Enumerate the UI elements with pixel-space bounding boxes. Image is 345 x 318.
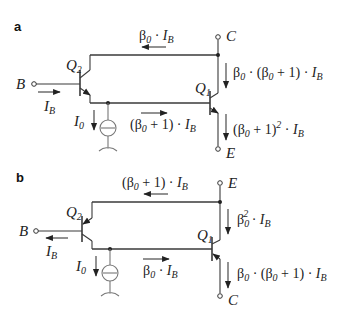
current-ib-label: IB [45, 243, 57, 261]
terminal-e-node [218, 181, 223, 186]
terminal-b-label: B [16, 76, 25, 92]
q2-label: Q2 [66, 57, 82, 75]
current-top-label: (β0 + 1) · IB [122, 175, 188, 192]
terminal-c-label: C [226, 28, 237, 44]
current-right-upper-label: β0 · (β0 + 1) · IB [233, 65, 323, 82]
current-right-lower-label: β0 · (β0 + 1) · IB [237, 266, 327, 283]
current-bottom-label: β0 · IB [143, 263, 178, 280]
current-right-upper-label: β02 · IB [237, 208, 271, 229]
panel-b-label: b [16, 170, 24, 185]
darlington-circuit-figure: a [0, 0, 345, 318]
current-source-icon [101, 249, 119, 296]
current-top-label: β0 · IB [139, 28, 174, 45]
current-right-lower-label: (β0 + 1)2 · IB [233, 119, 304, 139]
current-source-icon [99, 103, 117, 151]
terminal-c-node [216, 35, 221, 40]
current-i0-label: I0 [75, 258, 86, 276]
current-ib-label: IB [43, 98, 55, 116]
current-bottom-label: (β0 + 1) · IB [130, 117, 196, 134]
transistor-q2 [80, 55, 90, 103]
panel-a-label: a [14, 19, 22, 34]
junction-dot [216, 53, 220, 57]
terminal-b-node [32, 82, 37, 87]
terminal-e-node [216, 147, 221, 152]
panel-b: b E [16, 170, 327, 308]
terminal-b-label: B [19, 223, 28, 239]
q2-label: Q2 [66, 204, 82, 222]
current-i0-label: I0 [73, 113, 84, 131]
q1-label: Q1 [195, 80, 211, 98]
terminal-e-label: E [225, 145, 235, 161]
junction-dot [218, 200, 222, 204]
panel-a: a [14, 19, 323, 161]
transistor-q1 [212, 237, 220, 293]
transistor-q1 [210, 91, 218, 146]
terminal-b-node [34, 229, 39, 234]
terminal-c-label: C [228, 292, 239, 308]
terminal-c-node [218, 294, 223, 299]
transistor-q2 [82, 202, 92, 249]
terminal-e-label: E [227, 175, 237, 191]
q1-label: Q1 [197, 227, 213, 245]
